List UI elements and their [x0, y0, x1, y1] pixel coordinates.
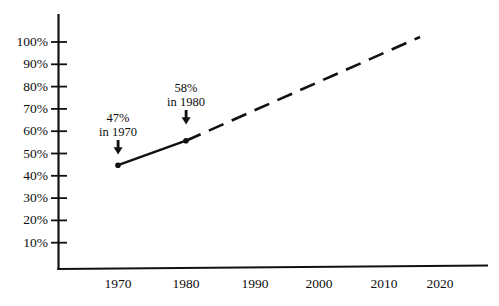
- data-point-1970: [115, 162, 121, 168]
- annotation-1970-year: in 1970: [85, 125, 151, 139]
- annotation-1980: 58% in 1980: [153, 81, 219, 109]
- series-observed-line: [118, 141, 186, 166]
- x-axis-tick-label-1980: 1980: [159, 277, 213, 291]
- chart-container: 100% 90% 80% 70% 60% 50% 40% 30% 20% 10%…: [0, 0, 499, 306]
- annotation-1970: 47% in 1970: [85, 111, 151, 139]
- x-axis-tick-label-2010: 2010: [357, 277, 411, 291]
- data-point-1980: [183, 138, 189, 144]
- y-axis-tick-label-10: 10%: [2, 236, 48, 250]
- y-axis-tick-label-100: 100%: [2, 35, 48, 49]
- x-axis-tick-label-2020: 2020: [413, 277, 467, 291]
- x-axis-tick-label-1970: 1970: [91, 277, 145, 291]
- y-axis-tick-label-40: 40%: [2, 169, 48, 183]
- annotation-arrow-1970-icon: [114, 140, 123, 155]
- annotation-1980-year: in 1980: [153, 95, 219, 109]
- y-axis-tick-label-60: 60%: [2, 124, 48, 138]
- series-projected-line: [186, 37, 420, 141]
- y-axis-tick-label-90: 90%: [2, 57, 48, 71]
- x-axis-tick-label-1990: 1990: [228, 277, 282, 291]
- y-axis-tick-label-50: 50%: [2, 147, 48, 161]
- x-axis-tick-label-2000: 2000: [292, 277, 346, 291]
- chart-plot-area: [0, 0, 499, 306]
- y-axis-tick-label-20: 20%: [2, 213, 48, 227]
- x-axis-line: [57, 266, 488, 270]
- annotation-1970-value: 47%: [107, 111, 130, 125]
- y-axis-tick-label-70: 70%: [2, 102, 48, 116]
- annotation-1980-value: 58%: [175, 81, 198, 95]
- y-axis-tick-label-80: 80%: [2, 80, 48, 94]
- y-axis-tick-label-30: 30%: [2, 191, 48, 205]
- annotation-arrow-1980-icon: [182, 110, 191, 125]
